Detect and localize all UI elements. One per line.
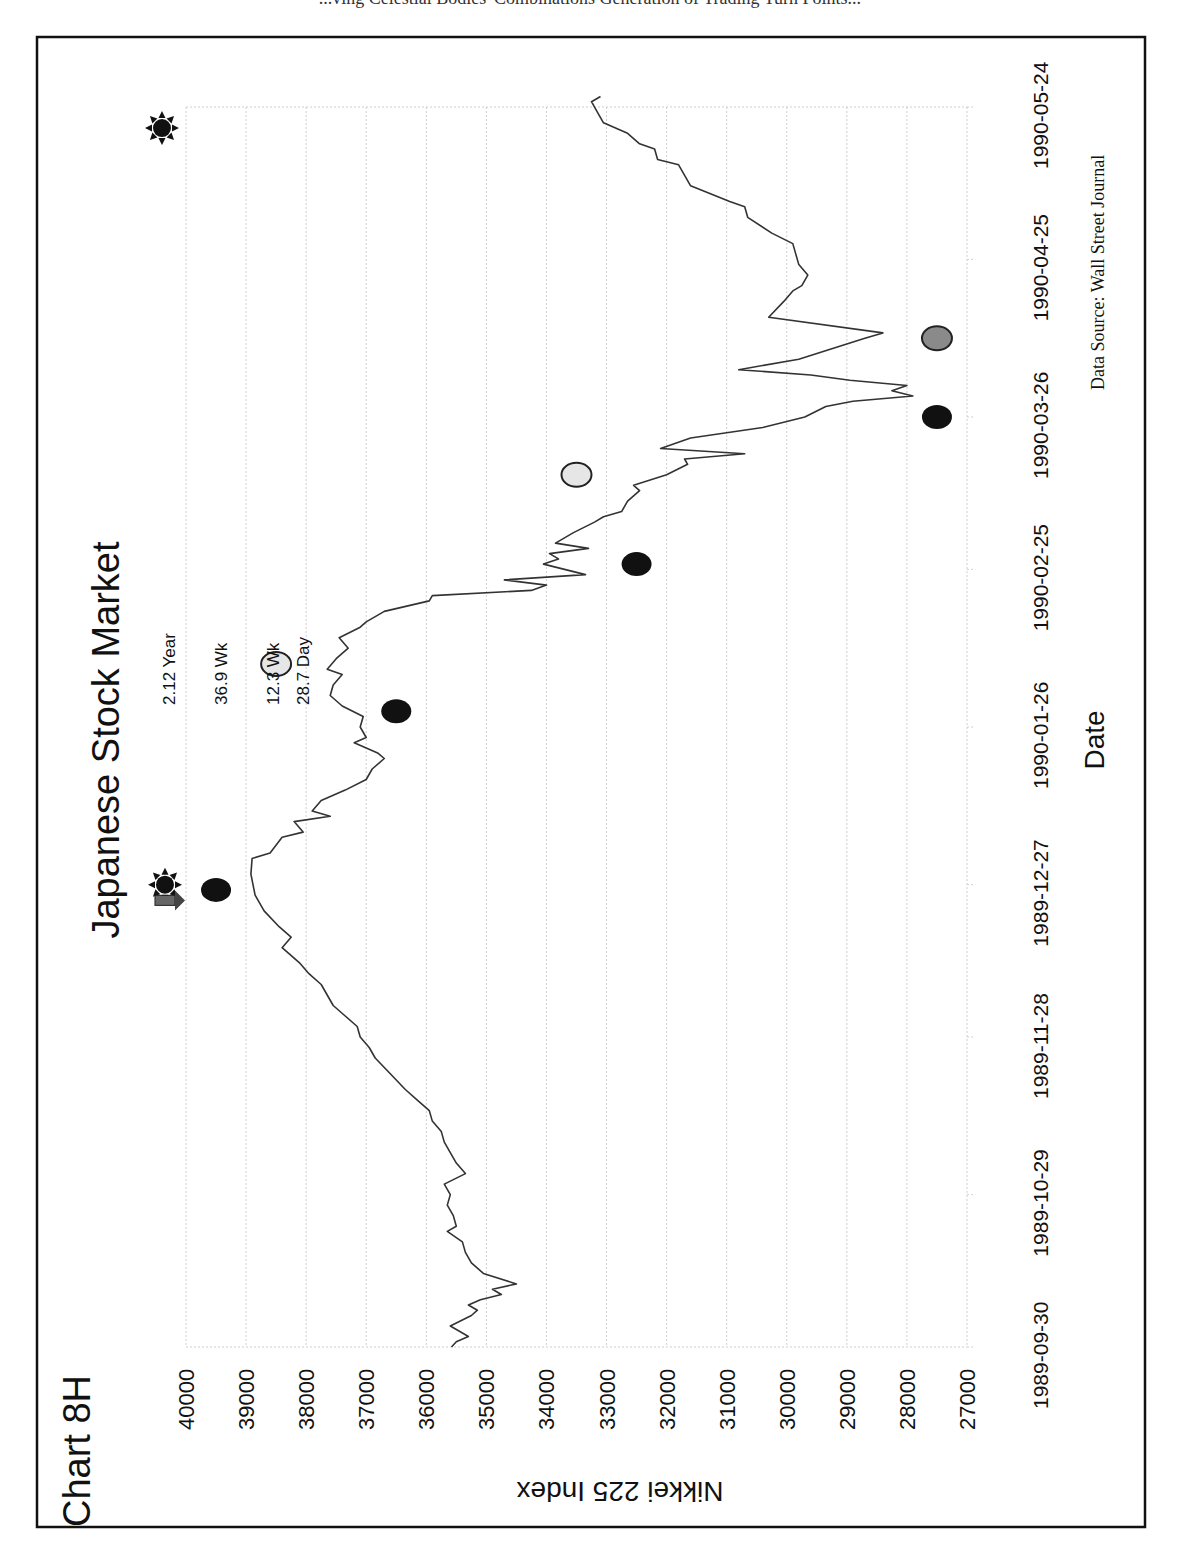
dot-black-marker — [381, 699, 411, 723]
date-tick-label: 1989-10-29 — [1029, 1149, 1052, 1256]
cycle-label-2-12-year: 2.12 Year — [160, 633, 179, 705]
chart-id: Chart 8H — [56, 1375, 98, 1527]
sun-icon — [145, 111, 179, 145]
date-tick-label: 1990-05-24 — [1029, 61, 1052, 169]
value-tick-label: 36000 — [414, 1369, 439, 1430]
date-tick-label: 1989-12-27 — [1029, 839, 1052, 946]
value-tick-label: 35000 — [474, 1369, 499, 1430]
value-tick-label: 31000 — [715, 1369, 740, 1430]
nikkei-line — [251, 97, 913, 1348]
value-tick-label: 29000 — [835, 1369, 860, 1430]
value-axis-ticks: 4000039000380003700036000350003400033000… — [174, 1369, 980, 1430]
gridlines — [186, 107, 967, 1347]
value-tick-label: 34000 — [534, 1369, 559, 1430]
date-tick-label: 1990-02-25 — [1029, 524, 1052, 631]
value-tick-label: 27000 — [955, 1369, 980, 1430]
value-tick-label: 40000 — [174, 1369, 199, 1430]
dot-gray-marker — [922, 326, 952, 350]
dot-light-marker — [562, 463, 592, 487]
date-tick-label: 1990-03-26 — [1029, 372, 1052, 479]
date-tick-label: 1990-04-25 — [1029, 214, 1052, 321]
markers — [145, 111, 952, 910]
value-tick-label: 28000 — [895, 1369, 920, 1430]
cycle-label-12-3-wk: 12.3 Wk — [264, 642, 283, 705]
value-tick-label: 30000 — [775, 1369, 800, 1430]
dot-black-marker — [622, 552, 652, 576]
data-source-note: Data Source: Wall Street Journal — [1088, 155, 1108, 390]
value-tick-label: 33000 — [595, 1369, 620, 1430]
chart-title: Japanese Stock Market — [85, 541, 127, 939]
y-axis-title: Nikkei 225 Index — [516, 1476, 723, 1507]
dot-black-marker — [922, 405, 952, 429]
value-tick-label: 38000 — [294, 1369, 319, 1430]
date-tick-label: 1989-09-30 — [1029, 1302, 1052, 1409]
page-header-cut-text: ...ving Celestial Bodies' Combinations G… — [319, 0, 861, 8]
cycle-label-28-7-day: 28.7 Day — [294, 636, 313, 705]
value-tick-label: 39000 — [234, 1369, 259, 1430]
chart-frame — [37, 37, 1145, 1527]
date-axis-ticks: 1989-09-301989-10-291989-11-281989-12-27… — [967, 61, 1052, 1409]
value-tick-label: 32000 — [655, 1369, 680, 1430]
date-tick-label: 1989-11-28 — [1029, 993, 1052, 1099]
value-tick-label: 37000 — [354, 1369, 379, 1430]
date-tick-label: 1990-01-26 — [1029, 682, 1052, 789]
chart: ...ving Celestial Bodies' Combinations G… — [0, 0, 1179, 1564]
cycle-label-36-9-wk: 36.9 Wk — [212, 642, 231, 705]
dot-black-marker — [201, 878, 231, 902]
x-axis-title: Date — [1079, 710, 1110, 769]
